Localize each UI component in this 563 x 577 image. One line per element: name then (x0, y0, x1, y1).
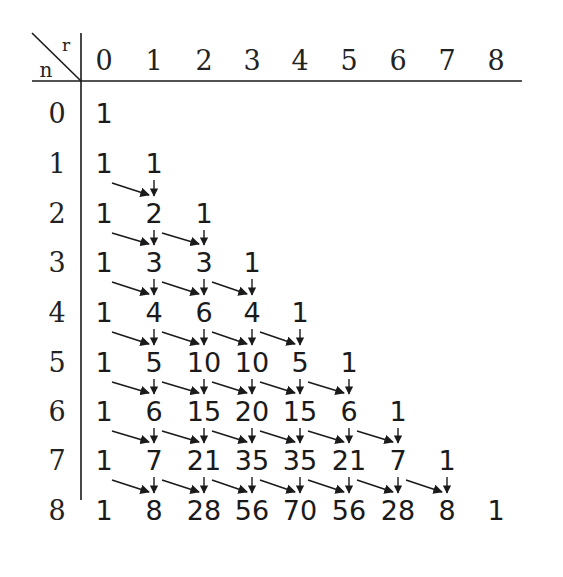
arrow-diagonal-n3-r1 (112, 282, 149, 294)
row-header-4: 4 (48, 299, 65, 326)
row-header-2: 2 (48, 200, 65, 227)
cell-n3-r1: 3 (145, 249, 162, 276)
cell-n7-r1: 7 (145, 447, 162, 474)
cell-n1-r0: 1 (95, 150, 112, 177)
cell-n5-r1: 5 (145, 349, 162, 376)
cell-n3-r0: 1 (95, 249, 112, 276)
cell-n8-r7: 8 (438, 497, 455, 524)
cell-n5-r5: 1 (340, 349, 357, 376)
arrow-diagonal-n6-r6 (357, 431, 393, 442)
row-header-0: 0 (48, 100, 65, 127)
cell-n0-r0: 1 (95, 100, 112, 127)
cell-n6-r2: 15 (187, 398, 221, 425)
row-header-3: 3 (48, 249, 65, 276)
arrow-diagonal-n3-r2 (162, 282, 199, 294)
cell-n6-r3: 20 (235, 398, 269, 425)
arrow-diagonal-n5-r2 (162, 382, 199, 393)
row-header-6: 6 (48, 398, 65, 425)
cell-n7-r5: 21 (332, 447, 366, 474)
cell-n4-r3: 4 (243, 299, 260, 326)
row-header-7: 7 (48, 447, 65, 474)
cell-n5-r2: 10 (187, 349, 221, 376)
cell-n5-r3: 10 (235, 349, 269, 376)
arrow-diagonal-n5-r5 (308, 382, 344, 393)
cell-n7-r6: 7 (389, 447, 406, 474)
row-header-5: 5 (48, 349, 65, 376)
cell-n8-r8: 1 (487, 497, 504, 524)
cell-n4-r2: 6 (195, 299, 212, 326)
cell-n7-r2: 21 (187, 447, 221, 474)
col-header-3: 3 (243, 47, 260, 74)
corner-col-label: r (62, 37, 70, 54)
cell-n4-r0: 1 (95, 299, 112, 326)
cell-n8-r5: 56 (332, 497, 366, 524)
col-header-6: 6 (389, 47, 406, 74)
cell-n2-r1: 2 (145, 200, 162, 227)
arrow-diagonal-n2-r1 (112, 233, 149, 244)
arrow-diagonal-n4-r3 (212, 332, 247, 344)
corner-row-label: n (40, 60, 53, 80)
cell-n1-r1: 1 (145, 150, 162, 177)
arrow-diagonal-n2-r2 (162, 233, 199, 244)
cell-n6-r0: 1 (95, 398, 112, 425)
cell-n4-r1: 4 (145, 299, 162, 326)
arrow-diagonal-n6-r5 (308, 431, 344, 442)
table-rules (0, 0, 563, 577)
cell-n2-r2: 1 (195, 200, 212, 227)
col-header-0: 0 (95, 47, 112, 74)
arrow-diagonal-n7-r6 (357, 480, 393, 492)
cell-n8-r6: 28 (381, 497, 415, 524)
cell-n3-r3: 1 (243, 249, 260, 276)
cell-n8-r0: 1 (95, 497, 112, 524)
cell-n8-r4: 70 (283, 497, 317, 524)
cell-n8-r2: 28 (187, 497, 221, 524)
row-header-8: 8 (48, 497, 65, 524)
cell-n7-r7: 1 (438, 447, 455, 474)
cell-n7-r4: 35 (283, 447, 317, 474)
col-header-8: 8 (487, 47, 504, 74)
arrow-diagonal-n6-r2 (162, 431, 199, 442)
col-header-2: 2 (195, 47, 212, 74)
arrow-diagonal-n6-r1 (112, 431, 149, 442)
cell-n7-r0: 1 (95, 447, 112, 474)
pascal-triangle-diagram: r n 012345678 012345678 1111211331146411… (0, 0, 563, 577)
col-header-1: 1 (145, 47, 162, 74)
cell-n6-r1: 6 (145, 398, 162, 425)
col-header-4: 4 (291, 47, 308, 74)
col-header-7: 7 (438, 47, 455, 74)
cell-n3-r2: 3 (195, 249, 212, 276)
cell-n6-r4: 15 (283, 398, 317, 425)
row-header-1: 1 (48, 150, 65, 177)
arrow-diagonal-n7-r5 (308, 480, 344, 492)
cell-n5-r4: 5 (291, 349, 308, 376)
arrow-diagonal-n7-r1 (112, 480, 149, 492)
arrow-diagonal-n5-r3 (212, 382, 247, 393)
arrow-diagonal-n3-r3 (212, 282, 247, 294)
arrow-diagonal-n7-r4 (260, 480, 295, 492)
arrow-diagonal-n5-r1 (112, 382, 149, 393)
arrow-diagonal-n7-r2 (162, 480, 199, 492)
arrow-diagonal-n4-r4 (260, 332, 295, 344)
arrow-diagonal-n7-r3 (212, 480, 247, 492)
arrow-diagonal-n4-r2 (162, 332, 199, 344)
cell-n5-r0: 1 (95, 349, 112, 376)
arrow-diagonal-n4-r1 (112, 332, 149, 344)
arrow-diagonal-n1-r1 (112, 183, 149, 195)
cell-n2-r0: 1 (95, 200, 112, 227)
cell-n7-r3: 35 (235, 447, 269, 474)
arrow-diagonal-n5-r4 (260, 382, 295, 393)
cell-n6-r5: 6 (340, 398, 357, 425)
col-header-5: 5 (340, 47, 357, 74)
arrow-diagonal-n6-r4 (260, 431, 295, 442)
arrow-diagonal-n7-r7 (406, 480, 442, 492)
cell-n8-r3: 56 (235, 497, 269, 524)
cell-n8-r1: 8 (145, 497, 162, 524)
cell-n6-r6: 1 (389, 398, 406, 425)
arrow-diagonal-n6-r3 (212, 431, 247, 442)
cell-n4-r4: 1 (291, 299, 308, 326)
